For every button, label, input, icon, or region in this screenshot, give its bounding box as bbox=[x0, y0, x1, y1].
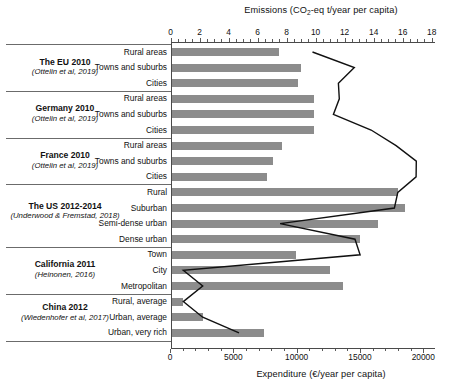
chart-figure: Emissions (CO2-eq t/year per capita) Exp… bbox=[0, 0, 453, 386]
expenditure-line bbox=[0, 0, 453, 386]
expenditure-polyline bbox=[183, 52, 416, 333]
